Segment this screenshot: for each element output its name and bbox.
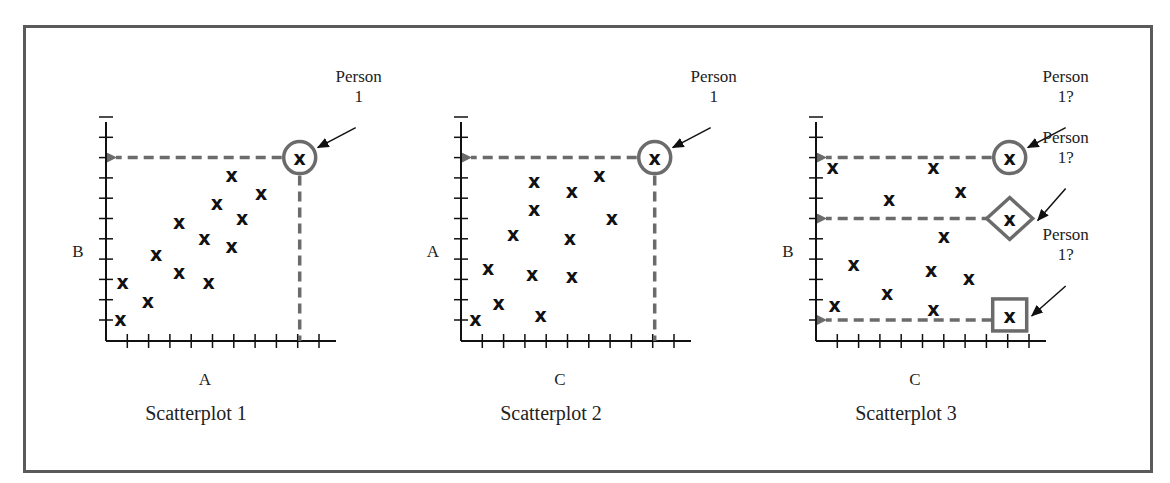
person-1-point-x-icon: x xyxy=(1004,147,1016,169)
data-point-x-icon: x xyxy=(564,227,576,249)
callout-arrow-icon xyxy=(1038,189,1066,221)
person-1-point-x-icon: x xyxy=(294,147,306,169)
callout-label-line1: Person xyxy=(1043,67,1090,86)
y-axis-label: B xyxy=(72,242,83,261)
data-point-x-icon: x xyxy=(492,292,504,314)
callout-label-line1: Person xyxy=(691,67,738,86)
person-1-highlight-circle: xPerson1 xyxy=(471,67,737,341)
scatterplot-title: Scatterplot 3 xyxy=(855,402,957,425)
person-1-highlight-circle: xPerson1 xyxy=(116,67,382,341)
data-point-x-icon: x xyxy=(116,271,128,293)
data-point-x-icon: x xyxy=(528,170,540,192)
data-point-x-icon: x xyxy=(255,182,267,204)
person-1-point-x-icon: x xyxy=(1004,208,1016,230)
data-point-x-icon: x xyxy=(236,207,248,229)
callout-arrow-icon xyxy=(1032,286,1066,316)
data-point-x-icon: x xyxy=(226,164,238,186)
scatterplot-3: CBScatterplot 3xxxxxxxxxxxxPerson1?xPers… xyxy=(782,67,1089,425)
data-point-x-icon: x xyxy=(606,207,618,229)
data-point-x-icon: x xyxy=(883,188,895,210)
data-point-x-icon: x xyxy=(150,243,162,265)
data-point-x-icon: x xyxy=(211,192,223,214)
scatterplot-title: Scatterplot 1 xyxy=(145,402,247,425)
callout-label-line2: 1 xyxy=(709,87,718,106)
data-point-x-icon: x xyxy=(593,164,605,186)
y-axis-label: B xyxy=(782,242,793,261)
y-axis-label: A xyxy=(427,242,440,261)
scatterplot-1: ABScatterplot 1xxxxxxxxxxxxxxPerson1 xyxy=(72,67,382,425)
figure: ABScatterplot 1xxxxxxxxxxxxxxPerson1CASc… xyxy=(0,0,1170,483)
data-point-x-icon: x xyxy=(847,253,859,275)
data-point-x-icon: x xyxy=(173,211,185,233)
data-point-x-icon: x xyxy=(927,298,939,320)
data-point-x-icon: x xyxy=(954,180,966,202)
data-point-x-icon: x xyxy=(963,267,975,289)
data-point-x-icon: x xyxy=(566,265,578,287)
data-point-x-icon: x xyxy=(925,259,937,281)
x-axis-label: A xyxy=(199,370,212,389)
scatterplot-title: Scatterplot 2 xyxy=(500,402,602,425)
scatterplots-canvas: ABScatterplot 1xxxxxxxxxxxxxxPerson1CASc… xyxy=(0,0,1170,483)
person-1-point-x-icon: x xyxy=(649,147,661,169)
data-point-x-icon: x xyxy=(881,282,893,304)
data-point-x-icon: x xyxy=(202,271,214,293)
data-point-x-icon: x xyxy=(528,198,540,220)
data-point-x-icon: x xyxy=(142,290,154,312)
x-axis-label: C xyxy=(554,370,565,389)
callout-arrow-icon xyxy=(318,128,356,148)
callout-arrow-icon xyxy=(673,128,711,148)
data-point-x-icon: x xyxy=(526,263,538,285)
callout-label-line2: 1? xyxy=(1058,148,1074,167)
data-point-x-icon: x xyxy=(469,308,481,330)
callout-label-line1: Person xyxy=(1043,225,1090,244)
data-point-x-icon: x xyxy=(226,235,238,257)
callout-label-line2: 1? xyxy=(1058,245,1074,264)
data-point-x-icon: x xyxy=(566,180,578,202)
scatterplot-2: CAScatterplot 2xxxxxxxxxxxxxxPerson1 xyxy=(427,67,737,425)
data-point-x-icon: x xyxy=(507,223,519,245)
data-point-x-icon: x xyxy=(173,261,185,283)
callout-label-line1: Person xyxy=(336,67,383,86)
data-point-x-icon: x xyxy=(482,257,494,279)
person-1-highlight-square: xPerson1? xyxy=(826,225,1089,331)
callout-label-line1: Person xyxy=(1043,128,1090,147)
data-point-x-icon: x xyxy=(829,294,841,316)
person-1-point-x-icon: x xyxy=(1004,305,1016,327)
data-point-x-icon: x xyxy=(938,225,950,247)
data-point-x-icon: x xyxy=(114,308,126,330)
callout-label-line2: 1? xyxy=(1058,87,1074,106)
data-point-x-icon: x xyxy=(534,304,546,326)
callout-label-line2: 1 xyxy=(354,87,363,106)
data-point-x-icon: x xyxy=(198,227,210,249)
x-axis-label: C xyxy=(909,370,920,389)
person-1-highlight-circle: xPerson1? xyxy=(826,67,1089,174)
